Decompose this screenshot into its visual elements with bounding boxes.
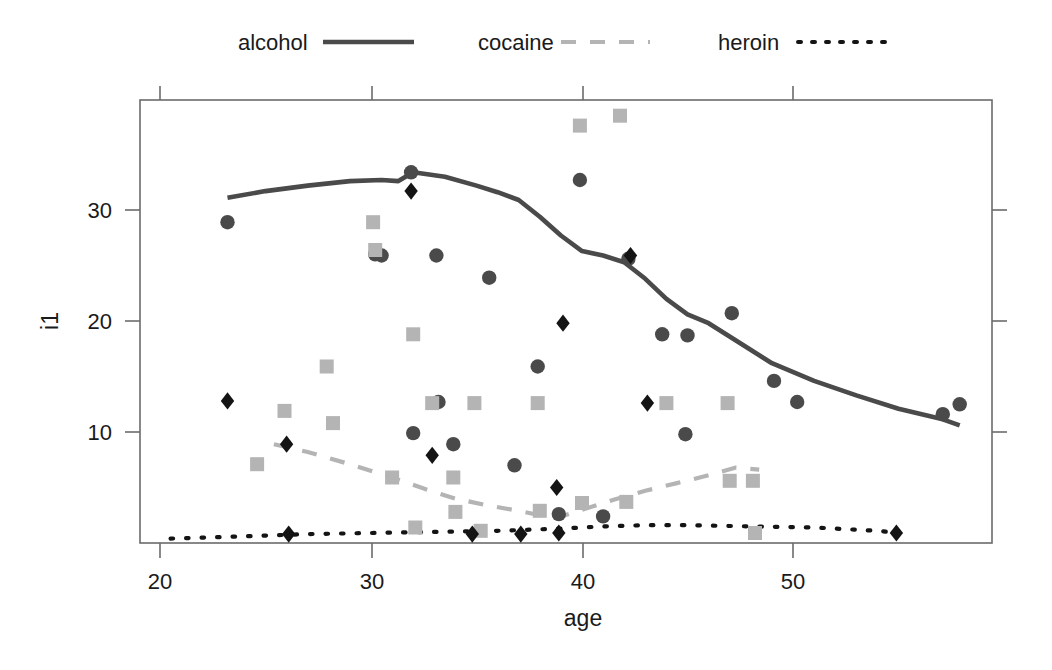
data-point-cocaine xyxy=(575,496,589,510)
data-point-alcohol xyxy=(596,509,610,523)
data-point-heroin xyxy=(556,315,569,332)
data-point-cocaine xyxy=(659,396,673,410)
data-point-alcohol xyxy=(573,173,587,187)
ytick-label-20: 20 xyxy=(88,309,112,334)
data-point-cocaine xyxy=(748,526,762,540)
data-point-cocaine xyxy=(278,404,292,418)
legend-label-cocaine: cocaine xyxy=(478,30,554,55)
data-point-heroin xyxy=(641,395,654,412)
data-point-cocaine xyxy=(467,396,481,410)
data-point-cocaine xyxy=(406,327,420,341)
data-point-cocaine xyxy=(408,521,422,535)
legend-label-heroin: heroin xyxy=(718,30,779,55)
data-point-alcohol xyxy=(429,248,443,262)
data-point-heroin xyxy=(552,524,565,541)
trend-line-alcohol xyxy=(228,172,960,425)
chart-legend: alcohol cocaine heroin xyxy=(238,30,886,55)
data-point-cocaine xyxy=(425,396,439,410)
data-point-heroin xyxy=(426,447,439,464)
xtick-label-50: 50 xyxy=(781,569,805,594)
data-point-cocaine xyxy=(385,471,399,485)
xtick-label-30: 30 xyxy=(360,569,384,594)
data-point-cocaine xyxy=(723,474,737,488)
data-point-alcohol xyxy=(552,507,566,521)
data-point-heroin xyxy=(282,526,295,543)
data-point-alcohol xyxy=(531,359,545,373)
data-point-heroin xyxy=(514,526,527,543)
chart-container: alcohol cocaine heroin xyxy=(0,0,1052,670)
data-point-alcohol xyxy=(220,215,234,229)
scatter-plot: alcohol cocaine heroin xyxy=(0,0,1052,670)
data-point-alcohol xyxy=(767,374,781,388)
ytick-label-10: 10 xyxy=(88,420,112,445)
xtick-label-40: 40 xyxy=(571,569,595,594)
y-axis-title: i1 xyxy=(37,312,63,330)
data-points-layer xyxy=(220,109,967,543)
data-point-alcohol xyxy=(680,328,694,342)
data-point-alcohol xyxy=(507,458,521,472)
trend-line-cocaine xyxy=(274,444,759,516)
xtick-label-20: 20 xyxy=(148,569,172,594)
legend-label-alcohol: alcohol xyxy=(238,30,308,55)
data-point-alcohol xyxy=(404,165,418,179)
data-point-cocaine xyxy=(368,243,382,257)
data-point-cocaine xyxy=(320,360,334,374)
data-point-alcohol xyxy=(678,427,692,441)
data-point-alcohol xyxy=(446,437,460,451)
x-axis-title: age xyxy=(564,605,602,631)
data-point-cocaine xyxy=(326,416,340,430)
trend-lines-layer xyxy=(171,172,960,538)
data-point-alcohol xyxy=(936,407,950,421)
data-point-cocaine xyxy=(619,495,633,509)
data-point-heroin xyxy=(221,392,234,409)
data-point-cocaine xyxy=(448,505,462,519)
data-point-cocaine xyxy=(446,471,460,485)
data-point-alcohol xyxy=(406,426,420,440)
data-point-alcohol xyxy=(953,397,967,411)
ytick-label-30: 30 xyxy=(88,198,112,223)
data-point-heroin xyxy=(890,524,903,541)
data-point-cocaine xyxy=(613,109,627,123)
data-point-cocaine xyxy=(250,457,264,471)
data-point-cocaine xyxy=(746,474,760,488)
data-point-cocaine xyxy=(573,119,587,133)
data-point-heroin xyxy=(404,183,417,200)
data-point-heroin xyxy=(550,479,563,496)
data-point-cocaine xyxy=(721,396,735,410)
trend-line-heroin xyxy=(171,525,899,538)
data-point-alcohol xyxy=(725,306,739,320)
data-point-heroin xyxy=(280,436,293,453)
data-point-cocaine xyxy=(366,215,380,229)
data-point-cocaine xyxy=(531,396,545,410)
axis-tick-labels: 20 30 40 50 10 20 30 xyxy=(88,198,806,594)
data-point-alcohol xyxy=(790,395,804,409)
data-point-alcohol xyxy=(655,327,669,341)
data-point-alcohol xyxy=(482,271,496,285)
data-point-cocaine xyxy=(533,504,547,518)
